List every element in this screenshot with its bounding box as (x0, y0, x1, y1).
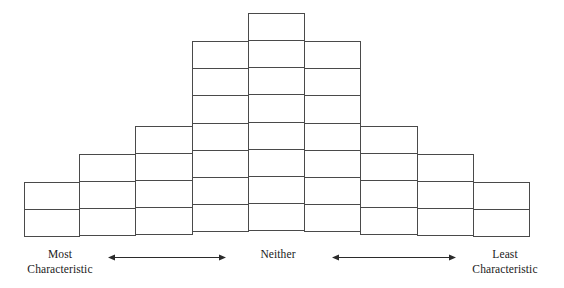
grid-column (361, 126, 417, 236)
grid-cell[interactable] (248, 203, 305, 231)
grid-cell[interactable] (248, 94, 305, 122)
grid-column (305, 41, 361, 232)
grid-cell[interactable] (192, 41, 249, 69)
grid-cell[interactable] (360, 207, 417, 235)
grid-cell[interactable] (304, 150, 361, 178)
grid-cell[interactable] (248, 67, 305, 95)
grid-cell[interactable] (79, 208, 136, 236)
label-least-line2: Characteristic (462, 262, 548, 277)
grid-cell[interactable] (417, 208, 474, 236)
grid-cell[interactable] (473, 182, 530, 210)
label-neither-line1: Neither (228, 247, 328, 262)
axis-label-row: Most Characteristic Neither Least Charac… (0, 242, 564, 288)
grid-column (80, 154, 136, 236)
grid-cell[interactable] (304, 204, 361, 232)
grid-cell[interactable] (192, 150, 249, 178)
label-most-characteristic: Most Characteristic (20, 247, 100, 276)
double-headed-arrow-left-icon (108, 253, 226, 262)
grid-column (136, 126, 192, 236)
grid-cell[interactable] (304, 68, 361, 96)
label-most-line1: Most (20, 247, 100, 262)
grid-cell[interactable] (417, 181, 474, 209)
grid-cell[interactable] (135, 153, 192, 181)
grid-column (24, 182, 80, 237)
grid-cell[interactable] (135, 180, 192, 208)
grid-cell[interactable] (360, 153, 417, 181)
double-headed-arrow-right-icon (332, 253, 456, 262)
grid-column (249, 13, 305, 231)
label-most-line2: Characteristic (20, 262, 100, 277)
grid-cell[interactable] (248, 176, 305, 204)
grid-cell[interactable] (248, 13, 305, 41)
grid-cell[interactable] (473, 209, 530, 237)
grid-cell[interactable] (360, 126, 417, 154)
grid-cell[interactable] (304, 95, 361, 123)
grid-cell[interactable] (248, 40, 305, 68)
grid-cell[interactable] (248, 122, 305, 150)
grid-cell[interactable] (135, 126, 192, 154)
grid-cell[interactable] (304, 41, 361, 69)
grid-cell[interactable] (192, 204, 249, 232)
grid-cell[interactable] (192, 68, 249, 96)
grid-column (193, 41, 249, 232)
grid-cell[interactable] (79, 181, 136, 209)
grid-column (418, 154, 474, 236)
grid-cell[interactable] (360, 180, 417, 208)
label-neither: Neither (228, 247, 328, 262)
grid-cell[interactable] (135, 207, 192, 235)
grid-cell[interactable] (192, 95, 249, 123)
grid-cell[interactable] (304, 177, 361, 205)
grid-cell[interactable] (24, 209, 80, 237)
grid-cell[interactable] (304, 123, 361, 151)
grid-cell[interactable] (192, 177, 249, 205)
label-least-characteristic: Least Characteristic (462, 247, 548, 276)
label-least-line1: Least (462, 247, 548, 262)
grid-column (474, 182, 530, 237)
q-sort-distribution-figure: Most Characteristic Neither Least Charac… (0, 0, 564, 288)
grid-cell[interactable] (417, 154, 474, 182)
grid-cell[interactable] (79, 154, 136, 182)
grid-cell[interactable] (24, 182, 80, 210)
distribution-grid (24, 13, 530, 238)
grid-cell[interactable] (192, 123, 249, 151)
grid-cell[interactable] (248, 149, 305, 177)
